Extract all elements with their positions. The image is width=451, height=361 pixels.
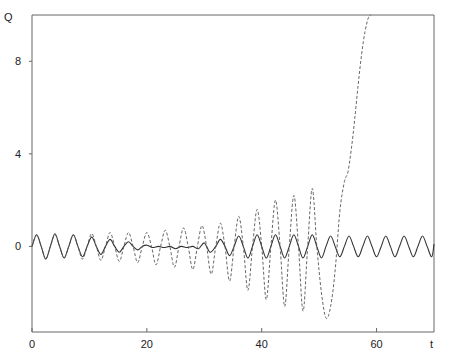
x-tick-label: 40 [256,338,268,350]
y-tick-label: 4 [15,148,21,160]
line-chart: 0204060048 t Q [0,0,451,361]
y-tick-label: 0 [15,240,21,252]
axis-ticks: 0204060048 [15,55,383,350]
y-axis-label: Q [4,11,13,23]
x-tick-label: 60 [370,338,382,350]
x-axis-label: t [430,338,433,350]
y-tick-label: 8 [15,55,21,67]
series-group [32,15,434,319]
x-tick-label: 0 [29,338,35,350]
dashed-series-line [32,15,371,319]
plot-frame [32,15,434,332]
x-tick-label: 20 [141,338,153,350]
